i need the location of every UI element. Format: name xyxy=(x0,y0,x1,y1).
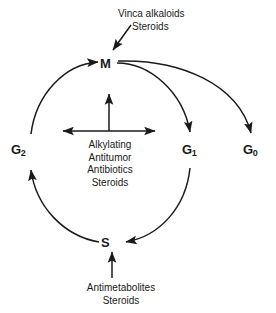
phase-g0-subscript: 0 xyxy=(253,148,258,158)
cell-cycle-diagram: M G1 S G2 G0 Vinca alkaloids Steroids Al… xyxy=(0,0,276,313)
mitosis-drug-line-1: Vinca alkaloids xyxy=(118,8,185,21)
phase-g2-subscript: 2 xyxy=(21,148,26,158)
phase-label-m: M xyxy=(100,56,111,71)
annotation-nonspecific-drugs: Alkylating Antitumor Antibiotics Steroid… xyxy=(69,139,151,189)
synthesis-drug-line-2: Steroids xyxy=(57,295,185,308)
phase-label-g1: G1 xyxy=(182,142,197,159)
arc-m-to-g1 xyxy=(117,63,190,132)
phase-label-g2: G2 xyxy=(11,142,26,159)
phase-g2-text: G xyxy=(11,142,21,157)
phase-label-g0: G0 xyxy=(243,142,258,159)
nonspecific-drug-line-4: Steroids xyxy=(69,177,151,190)
annotation-mitosis-drugs: Vinca alkaloids Steroids xyxy=(118,8,185,33)
annotation-synthesis-drugs: Antimetabolites Steroids xyxy=(57,282,185,307)
arc-g2-to-m xyxy=(31,62,98,134)
phase-s-text: S xyxy=(101,235,110,250)
arc-m-to-g0 xyxy=(118,61,251,133)
phase-g0-text: G xyxy=(243,142,253,157)
nonspecific-drug-line-2: Antitumor xyxy=(69,152,151,165)
nonspecific-drug-line-3: Antibiotics xyxy=(69,164,151,177)
nonspecific-drug-line-1: Alkylating xyxy=(69,139,151,152)
phase-g1-text: G xyxy=(182,142,192,157)
phase-g1-subscript: 1 xyxy=(192,148,197,158)
synthesis-drug-line-1: Antimetabolites xyxy=(57,282,185,295)
mitosis-drug-line-2: Steroids xyxy=(118,21,185,34)
phase-m-text: M xyxy=(100,56,111,71)
phase-label-s: S xyxy=(101,235,110,250)
